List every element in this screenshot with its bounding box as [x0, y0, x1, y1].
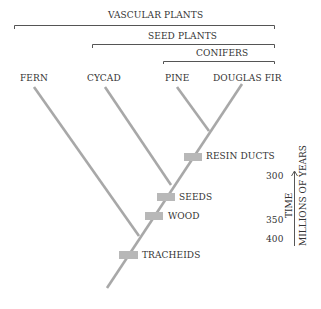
trait-resin-ducts: RESIN DUCTS: [206, 152, 275, 161]
vascular-plants-label: VASCULAR PLANTS: [108, 11, 203, 20]
vascular-bracket: [15, 26, 275, 30]
taxon-pine: PINE: [165, 74, 189, 83]
group-brackets: [15, 26, 275, 65]
conifers-label: CONIFERS: [196, 49, 248, 58]
wood-marker: [145, 212, 163, 220]
seed-plants-label: SEED PLANTS: [148, 32, 217, 41]
seeds-marker: [157, 193, 175, 201]
taxon-fern: FERN: [20, 74, 48, 83]
taxon-douglas-fir: DOUGLAS FIR: [213, 74, 282, 83]
cycad-branch: [105, 87, 171, 185]
resin-ducts-marker: [184, 153, 202, 161]
trait-wood: WOOD: [168, 212, 200, 221]
tracheids-marker: [119, 251, 138, 259]
time-label: TIME: [285, 193, 294, 218]
tick-300: 300: [266, 172, 283, 181]
trait-tracheids: TRACHEIDS: [142, 251, 200, 260]
taxon-cycad: CYCAD: [87, 74, 121, 83]
tick-350: 350: [266, 216, 283, 225]
conifers-bracket: [164, 62, 275, 65]
millions-of-years-label: MILLIONS OF YEARS: [299, 145, 308, 246]
trait-seeds: SEEDS: [179, 193, 212, 202]
fern-branch: [34, 87, 139, 236]
tick-400: 400: [266, 235, 283, 244]
pine-branch: [177, 87, 209, 131]
